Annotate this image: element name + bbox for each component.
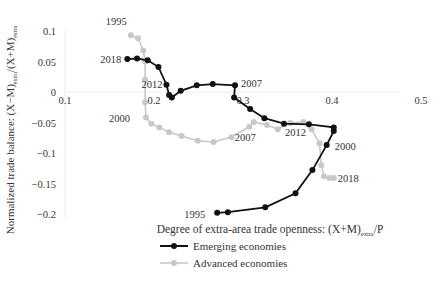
data-point [142,99,148,105]
legend-label: Emerging economies [193,240,286,252]
x-tick-label: 0.4 [325,95,339,106]
data-point [156,124,162,130]
data-point [247,106,253,112]
data-point [281,121,287,127]
legend: Emerging economiesAdvanced economies [160,240,287,269]
data-point [231,94,237,100]
trade-balance-chart: 0.10.050−0.05−0.1−0.15−0.20.10.20.30.40.… [0,0,447,282]
year-annotation: 2000 [109,113,130,124]
data-point [194,82,200,88]
data-point [275,126,281,132]
data-point [225,209,231,215]
axes: 0.10.050−0.05−0.1−0.15−0.20.10.20.30.40.… [32,26,428,220]
data-point [331,175,337,181]
data-point [124,56,130,62]
year-annotation: 2000 [335,141,356,152]
data-point [251,119,257,125]
data-point [261,115,267,121]
data-point [306,121,312,127]
data-point [178,88,184,94]
y-tick-label: −0.15 [32,179,56,190]
axis-labels: Degree of extra-area trade openness: (X+… [4,25,383,237]
data-point [155,64,161,70]
annotations-layer: 1995200020072012201819952000200720122018 [100,16,358,220]
data-point [264,122,270,128]
data-point [179,133,185,139]
data-point [232,82,238,88]
year-annotation: 1995 [184,209,205,220]
year-annotation: 2018 [338,173,359,184]
legend-item-emerging: Emerging economies [160,240,286,252]
data-point [166,92,172,98]
data-point [309,167,315,173]
y-tick-label: −0.05 [32,118,56,129]
data-point [262,204,268,210]
x-tick-label: 0.1 [58,95,71,106]
data-point [321,173,327,179]
y-tick-label: 0 [51,87,56,98]
legend-item-advanced: Advanced economies [160,257,287,269]
legend-label: Advanced economies [193,257,287,269]
x-axis-label: Degree of extra-area trade openness: (X+… [157,223,384,237]
x-tick-label: 0.5 [414,95,427,106]
data-point [228,134,234,140]
data-point [163,82,169,88]
y-tick-label: 0.05 [38,57,56,68]
year-annotation: 2012 [141,79,162,90]
data-point [140,48,146,54]
data-point [128,32,134,38]
y-tick-label: −0.2 [37,209,56,220]
x-tick-label: 0.2 [147,95,160,106]
data-point [143,115,149,121]
data-point [195,138,201,144]
data-point [210,81,216,87]
y-tick-label: 0.1 [43,26,56,37]
data-point [145,57,151,63]
data-point [246,124,252,130]
y-tick-label: −0.1 [37,148,56,159]
data-point [214,210,220,216]
data-point [331,124,337,130]
data-point [318,162,324,168]
data-point [324,142,330,148]
data-point [134,55,140,61]
y-axis-label: Normalized trade balance: (X−M)extra/(X+… [4,25,18,234]
year-annotation: 2018 [100,54,121,65]
year-annotation: 2007 [235,132,256,143]
year-annotation: 1995 [106,16,127,27]
data-point [148,121,154,127]
data-point [293,190,299,196]
data-point [135,35,141,41]
series-layer [124,32,336,216]
year-annotation: 2007 [241,78,262,89]
year-annotation: 2012 [285,127,306,138]
series-advanced [128,32,337,181]
data-point [317,140,323,146]
data-point [211,139,217,145]
data-point [166,129,172,135]
